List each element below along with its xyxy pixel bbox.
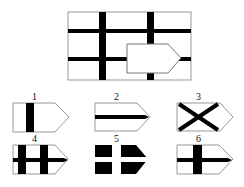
option-label: 1 bbox=[32, 91, 37, 102]
option-1[interactable]: 1 bbox=[13, 91, 69, 132]
option-3[interactable]: 3 bbox=[177, 91, 233, 131]
main-figure bbox=[68, 12, 191, 80]
option-label: 4 bbox=[32, 133, 37, 144]
option-label: 3 bbox=[196, 91, 201, 102]
option-label: 2 bbox=[114, 91, 119, 102]
option-6[interactable]: 6 bbox=[177, 133, 233, 174]
option-label: 6 bbox=[196, 133, 201, 144]
option-label: 5 bbox=[114, 133, 119, 144]
option-4[interactable]: 4 bbox=[13, 133, 68, 174]
puzzle-figure: 1 2 3 4 5 6 bbox=[0, 0, 244, 187]
option-5[interactable]: 5 bbox=[95, 133, 149, 174]
option-2[interactable]: 2 bbox=[95, 91, 150, 131]
